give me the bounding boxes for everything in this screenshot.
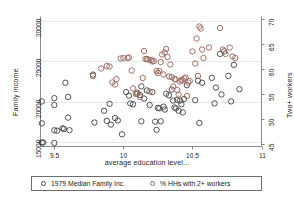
data-point [190,49,195,54]
y-tick-label-right: 55 [268,93,275,100]
data-point [187,78,192,83]
data-point [52,95,57,100]
data-point [228,99,233,104]
data-point [227,45,232,50]
x-tick-label: 10.5 [178,152,208,159]
y-tick-label-right: 70 [268,18,275,25]
data-point [65,115,70,120]
legend-marker-circle-icon [41,181,46,186]
data-point [119,132,124,137]
plot-canvas [0,0,294,201]
data-point [63,80,68,85]
data-point [101,108,106,113]
legend-label-workers: % HHs with 2+ workers [160,180,230,187]
y-tick-label-left: 25000 [35,58,42,76]
data-point [165,54,170,59]
data-point [158,119,163,124]
data-point [108,122,113,127]
data-point [129,68,134,73]
y-tick-label-right: 45 [268,143,275,150]
data-point [197,120,202,125]
scatter-chart: Family income Two+ workers average educa… [0,0,294,201]
x-tick-label: 9.5 [40,152,70,159]
data-point [67,128,72,133]
data-point [141,48,146,53]
legend-label-income: 1979 Median Family Inc. [51,180,125,187]
data-point [152,119,157,124]
data-point [206,45,211,50]
data-point [65,94,70,99]
data-point [39,121,44,126]
y-tick-label-right: 50 [268,118,275,125]
data-point [217,25,222,30]
data-point [163,46,168,51]
y-tick-label-right: 60 [268,68,275,75]
data-point [114,76,119,81]
x-tick-label: 11 [248,152,278,159]
data-point [107,101,112,106]
data-point [226,73,231,78]
data-point [168,62,173,67]
y-tick-label-left: 30000 [35,18,42,36]
legend-marker-circle-icon [150,181,155,186]
data-point [209,75,214,80]
data-point [92,120,97,125]
x-tick-label: 10 [109,152,139,159]
data-point [194,36,199,41]
legend-item-income: 1979 Median Family Inc. [41,180,125,187]
y-axis-left-title: Family income [11,68,20,116]
data-point [139,119,144,124]
y-tick-label-right: 65 [268,43,275,50]
data-point [147,102,152,107]
data-point [126,93,131,98]
data-point [201,55,206,60]
data-point [52,102,57,107]
data-point [199,47,204,52]
chart-legend: 1979 Median Family Inc. % HHs with 2+ wo… [31,176,262,191]
data-point [52,140,57,145]
data-point [140,75,145,80]
data-point [139,84,144,89]
data-point [237,87,242,92]
data-point [99,66,104,71]
data-point [212,101,217,106]
x-axis-title: average education level... [0,158,294,167]
data-point [213,85,218,90]
y-axis-right-title: Two+ workers [285,72,294,118]
data-point [161,72,166,77]
data-point [219,92,224,97]
y-tick-label-left: 20000 [35,99,42,117]
data-point [154,127,159,132]
legend-item-workers: % HHs with 2+ workers [150,180,230,187]
data-point [123,89,128,94]
data-point [231,62,236,67]
